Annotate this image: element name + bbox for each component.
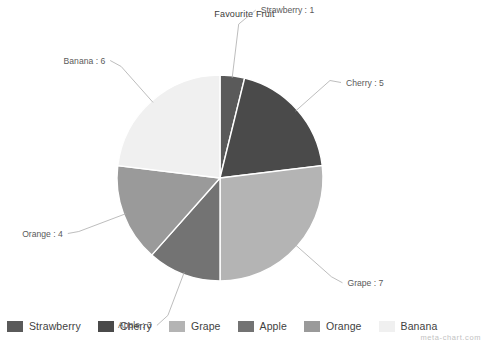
leader-line-orange: [68, 214, 126, 234]
legend-label-cherry: Cherry: [120, 320, 152, 332]
legend-swatch-apple: [238, 321, 254, 332]
watermark-text: meta-chart.com: [421, 333, 482, 342]
legend-swatch-banana: [379, 321, 395, 332]
legend-swatch-strawberry: [7, 321, 23, 332]
legend-swatch-orange: [304, 321, 320, 332]
legend-label-strawberry: Strawberry: [29, 320, 81, 332]
pie-chart-svg: Strawberry : 1Cherry : 5Grape : 7Apple :…: [0, 0, 489, 351]
legend-swatch-cherry: [98, 321, 114, 332]
pie-slice-group: [117, 75, 323, 281]
legend-label-banana: Banana: [401, 320, 438, 332]
slice-label-cherry: Cherry : 5: [346, 78, 384, 88]
slice-label-grape: Grape : 7: [348, 278, 384, 288]
legend-swatch-grape: [169, 321, 185, 332]
pie-slice-banana[interactable]: [118, 75, 220, 178]
chart-legend: StrawberryCherryGrapeAppleOrangeBanana: [0, 314, 489, 338]
legend-item-strawberry[interactable]: Strawberry: [7, 320, 81, 332]
legend-item-orange[interactable]: Orange: [304, 320, 362, 332]
legend-item-grape[interactable]: Grape: [169, 320, 221, 332]
legend-item-apple[interactable]: Apple: [238, 320, 287, 332]
pie-chart-container: Favourite Fruit Strawberry : 1Cherry : 5…: [0, 0, 489, 351]
legend-label-apple: Apple: [260, 320, 287, 332]
legend-item-cherry[interactable]: Cherry: [98, 320, 152, 332]
slice-label-orange: Orange : 4: [22, 229, 63, 239]
slice-label-banana: Banana : 6: [64, 56, 106, 66]
legend-item-banana[interactable]: Banana: [379, 320, 438, 332]
pie-slice-grape[interactable]: [220, 166, 323, 281]
leader-line-grape: [296, 245, 343, 283]
leader-line-banana: [110, 61, 153, 103]
leader-line-strawberry: [232, 10, 256, 78]
slice-label-strawberry: Strawberry : 1: [261, 5, 315, 15]
leader-line-cherry: [296, 81, 341, 112]
legend-label-orange: Orange: [326, 320, 362, 332]
legend-label-grape: Grape: [191, 320, 221, 332]
